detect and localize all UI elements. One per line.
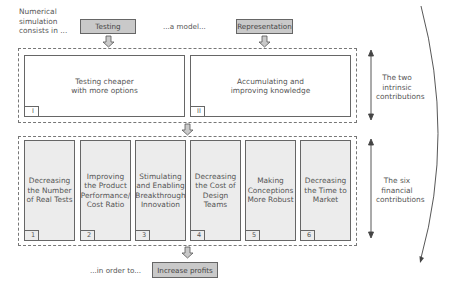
financial-number-6: 6 <box>301 230 315 240</box>
financial-number-3: 3 <box>136 230 150 240</box>
increase-profits-label: Increase profits <box>157 266 213 275</box>
financial-text-3: Stimulating and Enabling Breakthrough In… <box>135 172 185 210</box>
financial-box-3: Stimulating and Enabling Breakthrough In… <box>135 140 186 241</box>
double-arrow-icon <box>369 50 374 238</box>
intrinsic-box-1: Testing cheaper with more options I <box>24 55 185 117</box>
intrinsic-number-2: II <box>191 106 205 116</box>
financial-box-6: Decreasing the Time to Market 6 <box>300 140 351 241</box>
intrinsic-side-label: The two intrinsic contributions <box>376 73 418 102</box>
financial-text-2: Improving the Product Performance/ Cost … <box>81 172 130 210</box>
financial-text-6: Decreasing the Time to Market <box>304 176 346 205</box>
financial-number-2: 2 <box>81 230 95 240</box>
financial-text-1: Decreasing the Number of Real Tests <box>26 176 72 205</box>
intrinsic-text-1: Testing cheaper with more options <box>71 77 138 96</box>
financial-box-2: Improving the Product Performance/ Cost … <box>80 140 131 241</box>
financial-box-4: Decreasing the Cost of Design Teams 4 <box>190 140 241 241</box>
footer-lead-text: ...in order to... <box>90 266 141 275</box>
financial-text-5: Making Conceptions More Robust <box>247 176 293 205</box>
financial-number-4: 4 <box>191 230 205 240</box>
financial-box-5: Making Conceptions More Robust 5 <box>245 140 296 241</box>
curved-arrow-icon <box>420 6 439 263</box>
intrinsic-box-2: Accumulating and improving knowledge II <box>190 55 351 117</box>
increase-profits-box: Increase profits <box>152 262 218 278</box>
financial-side-label: The six financial contributions <box>376 176 418 205</box>
financial-text-4: Decreasing the Cost of Design Teams <box>191 172 240 210</box>
financial-number-5: 5 <box>246 230 260 240</box>
financial-box-1: Decreasing the Number of Real Tests 1 <box>24 140 75 241</box>
financial-number-1: 1 <box>25 230 39 240</box>
intrinsic-number-1: I <box>25 106 39 116</box>
intrinsic-text-2: Accumulating and improving knowledge <box>231 77 311 96</box>
